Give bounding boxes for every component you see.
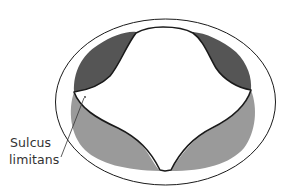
- sulcus-limitans-label-line1: Sulcus: [10, 136, 51, 150]
- sulcus-limitans-marker: [84, 96, 86, 98]
- sulcus-limitans-label-line2: limitans: [9, 153, 59, 167]
